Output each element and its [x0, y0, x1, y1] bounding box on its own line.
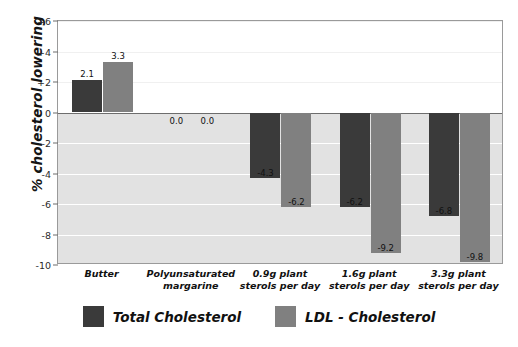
- y-tick-label: -4: [42, 168, 58, 179]
- bar-value-label: -6.8: [424, 206, 464, 216]
- bar: [340, 113, 370, 208]
- bar-value-label: -6.2: [276, 197, 316, 207]
- x-category-label: Polyunsaturatedmargarine: [146, 268, 235, 291]
- plot-area: +6+4+20-2-4-6-8-10 2.13.30.00.0-4.3-6.2-…: [57, 20, 503, 264]
- bar: [429, 113, 459, 217]
- bar: [281, 113, 311, 208]
- bar-value-label: 2.1: [67, 69, 107, 79]
- legend-label: LDL - Cholesterol: [305, 309, 435, 325]
- legend-item[interactable]: LDL - Cholesterol: [275, 306, 435, 327]
- bar: [371, 113, 401, 253]
- bar-value-label: -6.2: [335, 197, 375, 207]
- y-tick-label: -6: [42, 199, 58, 210]
- y-tick-label: 0: [45, 107, 58, 118]
- x-category-line: 0.9g plant: [235, 268, 324, 280]
- legend-swatch: [83, 306, 104, 327]
- bar-value-label: 3.3: [98, 51, 138, 61]
- y-tick-label: +4: [37, 46, 58, 57]
- bar: [460, 113, 490, 262]
- x-category-line: sterols per day: [414, 280, 503, 292]
- bar-group: 2.13.3: [58, 21, 147, 263]
- x-axis-categories: ButterPolyunsaturatedmargarine0.9g plant…: [57, 268, 503, 306]
- y-tick-label: -8: [42, 229, 58, 240]
- bar-group: -6.2-9.2: [326, 21, 415, 263]
- bar-value-label: -4.3: [245, 168, 285, 178]
- bar-group: -4.3-6.2: [236, 21, 325, 263]
- legend-item[interactable]: Total Cholesterol: [83, 306, 241, 327]
- x-category-line: sterols per day: [235, 280, 324, 292]
- x-category-line: Butter: [57, 268, 146, 280]
- bar-value-label: 0.0: [187, 116, 227, 126]
- chart-legend: Total CholesterolLDL - Cholesterol: [0, 306, 518, 327]
- bar-value-label: -9.8: [455, 252, 495, 262]
- legend-swatch: [275, 306, 296, 327]
- x-category-line: sterols per day: [325, 280, 414, 292]
- x-category-label: 3.3g plantsterols per day: [414, 268, 503, 291]
- y-tick-label: -2: [42, 138, 58, 149]
- legend-label: Total Cholesterol: [113, 309, 241, 325]
- y-tick-label: +6: [37, 16, 58, 27]
- x-category-label: Butter: [57, 268, 146, 280]
- x-category-line: 3.3g plant: [414, 268, 503, 280]
- bar-group: -6.8-9.8: [415, 21, 504, 263]
- chart-root: % cholesterol lowering +6+4+20-2-4-6-8-1…: [0, 0, 518, 347]
- x-category-line: margarine: [146, 280, 235, 292]
- x-category-line: 1.6g plant: [325, 268, 414, 280]
- gridline: [58, 265, 502, 266]
- y-tick-label: -10: [35, 260, 58, 271]
- x-category-label: 0.9g plantsterols per day: [235, 268, 324, 291]
- bar-group: 0.00.0: [147, 21, 236, 263]
- bar: [103, 62, 133, 112]
- y-tick-label: +2: [37, 77, 58, 88]
- x-category-line: Polyunsaturated: [146, 268, 235, 280]
- bar: [72, 80, 102, 112]
- x-category-label: 1.6g plantsterols per day: [325, 268, 414, 291]
- bar-value-label: -9.2: [366, 243, 406, 253]
